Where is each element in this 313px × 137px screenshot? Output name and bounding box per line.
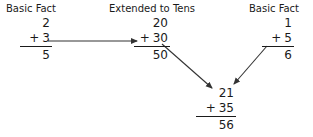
- left-sum: 5: [20, 47, 52, 63]
- problem-stack-middle: 20 +30 50: [134, 16, 170, 63]
- result-bottom-addend: 35: [219, 101, 234, 115]
- problem-stack-result: 21 +35 56: [196, 86, 236, 133]
- right-operator: +: [271, 31, 281, 45]
- problem-stack-left: 2 +3 5: [20, 16, 52, 63]
- left-addend-row: +3: [20, 31, 52, 47]
- result-operator: +: [206, 101, 216, 115]
- middle-operator: +: [140, 31, 150, 45]
- middle-sum: 50: [134, 47, 170, 63]
- left-top-addend: 2: [20, 16, 52, 31]
- result-top-addend: 21: [196, 86, 236, 101]
- middle-top-addend: 20: [134, 16, 170, 31]
- heading-basic-fact-right: Basic Fact: [249, 3, 299, 15]
- left-operator: +: [29, 31, 39, 45]
- math-diagram-canvas: Basic Fact 2 +3 5 Extended to Tens 20 +3…: [0, 0, 313, 137]
- right-bottom-addend: 5: [284, 31, 292, 45]
- heading-basic-fact-left: Basic Fact: [6, 3, 56, 15]
- right-sum: 6: [262, 47, 294, 63]
- right-addend-row: +5: [262, 31, 294, 47]
- middle-addend-row: +30: [134, 31, 170, 47]
- heading-extended-to-tens: Extended to Tens: [109, 3, 195, 15]
- problem-stack-right: 1 +5 6: [262, 16, 294, 63]
- middle-bottom-addend: 30: [153, 31, 168, 45]
- result-sum: 56: [196, 117, 236, 133]
- left-bottom-addend: 3: [42, 31, 50, 45]
- right-top-addend: 1: [262, 16, 294, 31]
- result-addend-row: +35: [196, 101, 236, 117]
